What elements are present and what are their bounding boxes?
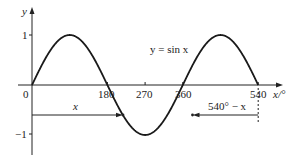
- sine-chart: y 1 −1 0 180 270 360 540 x/° y = sin x x…: [0, 0, 301, 163]
- y-tick-label-1: 1: [22, 29, 28, 41]
- arrow-540-minus-x-label: 540° − x: [208, 100, 247, 112]
- curve-label: y = sin x: [150, 43, 189, 55]
- x-tick-label-360: 360: [175, 88, 192, 100]
- x-axis-label: x/°: [272, 88, 286, 100]
- y-axis-label: y: [21, 5, 27, 17]
- point-x: [122, 114, 125, 117]
- x-axis-arrow-icon: [276, 83, 283, 88]
- x-tick-label-540: 540: [250, 88, 267, 100]
- x-tick-label-180: 180: [98, 88, 115, 100]
- y-axis-arrow-icon: [30, 7, 35, 14]
- origin-label: 0: [23, 88, 29, 100]
- point-540-minus-x: [191, 114, 194, 117]
- y-tick-label-minus1: −1: [15, 128, 27, 140]
- x-tick-label-270: 270: [136, 88, 153, 100]
- arrow-x-label: x: [72, 100, 78, 112]
